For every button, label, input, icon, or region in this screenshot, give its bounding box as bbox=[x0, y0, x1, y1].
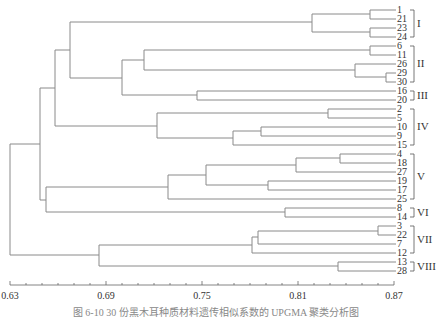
group-label: VIII bbox=[417, 260, 436, 272]
group-bracket bbox=[410, 226, 414, 253]
leaf-label: 28 bbox=[397, 266, 407, 276]
group-label: II bbox=[417, 57, 424, 69]
group-label: III bbox=[417, 89, 428, 101]
x-axis bbox=[10, 281, 394, 285]
group-bracket bbox=[410, 10, 414, 37]
group-bracket bbox=[410, 262, 414, 271]
dendrogram-branches bbox=[10, 10, 396, 271]
group-label: I bbox=[417, 17, 421, 29]
group-label: V bbox=[417, 170, 425, 182]
x-tick-label: 0.87 bbox=[385, 290, 403, 301]
group-label: IV bbox=[417, 120, 429, 132]
figure-caption: 图 6-10 30 份黑木耳种质材料遗传相似系数的 UPGMA 聚类分析图 bbox=[0, 304, 432, 319]
x-tick-label: 0.63 bbox=[1, 290, 19, 301]
x-tick-label: 0.75 bbox=[193, 290, 211, 301]
x-tick-label: 0.81 bbox=[289, 290, 307, 301]
group-bracket bbox=[410, 91, 414, 100]
group-bracket bbox=[410, 46, 414, 82]
group-bracket bbox=[410, 208, 414, 217]
group-brackets bbox=[410, 10, 414, 271]
group-bracket bbox=[410, 109, 414, 145]
group-label: VII bbox=[417, 233, 432, 245]
group-label: VI bbox=[417, 206, 429, 218]
x-tick-label: 0.69 bbox=[97, 290, 115, 301]
group-bracket bbox=[410, 154, 414, 199]
